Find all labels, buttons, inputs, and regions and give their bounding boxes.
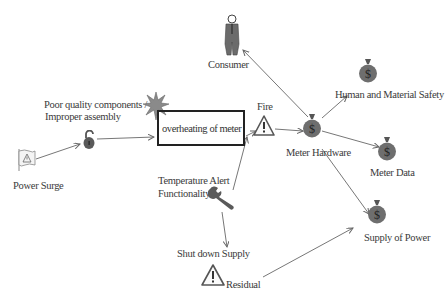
edge-residual-supplypower	[263, 228, 353, 277]
consumer-label: Consumer	[208, 59, 249, 71]
residual-label: Residual	[226, 279, 260, 291]
meter-hardware-label: Meter Hardware	[286, 147, 351, 159]
unlocked-padlock-icon	[83, 130, 95, 150]
edge-powersurge-poorquality	[36, 144, 80, 159]
edge-fire-meterhardware	[275, 129, 303, 131]
svg-text:$: $	[374, 208, 380, 222]
fire-label: Fire	[257, 101, 273, 113]
human-safety-label: Human and Material Safety	[335, 89, 444, 101]
supply-power-label: Supply of Power	[364, 232, 430, 244]
svg-text:$: $	[365, 67, 371, 81]
shutdown-label: Shut down Supply	[177, 248, 250, 260]
money-bag-icon: $	[367, 200, 387, 224]
power-surge-label: Power Surge	[13, 180, 63, 192]
meter-data-label: Meter Data	[370, 167, 415, 179]
money-bag-icon: $	[358, 59, 378, 83]
svg-text:$: $	[384, 145, 390, 159]
edge-tempalert-shutdown	[222, 212, 227, 247]
edge-meterhardware-meterdata	[322, 131, 379, 147]
temp-alert-label-line2: Functionality	[158, 188, 210, 200]
poor-quality-label-line2: Improper assembly	[45, 111, 121, 123]
edge-poorquality-overheating	[97, 137, 154, 139]
overheating-box: overheating of meter	[157, 110, 245, 146]
edge-meterhardware-consumer	[243, 50, 308, 117]
wrench-icon	[208, 186, 236, 210]
warning-flag-icon	[17, 148, 37, 172]
person-icon	[223, 14, 241, 56]
warning-triangle-icon	[253, 115, 275, 137]
money-bag-icon: $	[377, 137, 397, 161]
overheating-label: overheating of meter	[162, 123, 241, 134]
money-bag-icon: $	[302, 114, 322, 138]
svg-text:$: $	[309, 122, 315, 136]
warning-triangle-icon	[201, 264, 225, 287]
poor-quality-label-line1: Poor quality components /	[44, 99, 147, 111]
